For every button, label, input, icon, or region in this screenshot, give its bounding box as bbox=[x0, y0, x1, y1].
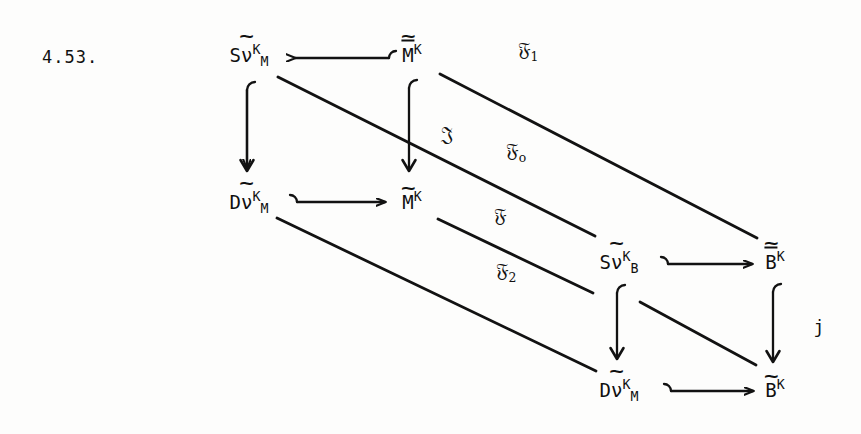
node-base-letters: S~ν bbox=[600, 253, 623, 272]
edge-label-j-small: j bbox=[814, 318, 825, 336]
arrow-bbar-down-to-b bbox=[767, 284, 782, 362]
node-base-letters: S~ν bbox=[230, 46, 253, 65]
arrow-svb-down-to-dvm bbox=[611, 285, 626, 359]
node-sv-b-mid-right: S~νKB bbox=[600, 253, 639, 272]
arrow-mbar-down-to-m bbox=[403, 80, 418, 171]
node-m-bar-top-right: ~MK bbox=[402, 46, 421, 65]
edge-label-j-fraktur: 𝔍 bbox=[441, 124, 453, 144]
diagonal-dvm-to-dvmbottom bbox=[277, 218, 596, 371]
node-b-tilde-bottom-right: ~BK bbox=[765, 381, 784, 400]
figure-canvas: 4.53. S nu (hooked arrow pointing LEFT) … bbox=[0, 0, 861, 434]
node-subscript: M bbox=[630, 389, 638, 404]
node-dv-m-mid-left: D~νKM bbox=[230, 193, 269, 212]
arrow-svm-down-to-dvm bbox=[241, 82, 256, 171]
edge-label-f-plain: 𝔉 bbox=[494, 205, 507, 225]
node-subscript: M bbox=[260, 54, 268, 69]
arrow-dvmbottom-to-b bbox=[664, 384, 753, 391]
node-subscript: M bbox=[260, 201, 268, 216]
edge-label-f-one: 𝔉1 bbox=[518, 39, 539, 63]
node-b-bar-tilde-right: ~BK bbox=[765, 253, 784, 272]
diagonal-svb-to-b bbox=[640, 302, 756, 365]
diagonal-mbar-to-bbar bbox=[440, 74, 757, 238]
arrow-layer: S nu (hooked arrow pointing LEFT) --> bbox=[0, 0, 861, 434]
arrow-dvm-to-m bbox=[290, 195, 385, 202]
node-dv-m-bottom: D~νKM bbox=[600, 381, 639, 400]
node-base-letters: ~M bbox=[402, 193, 413, 212]
diagonal-svm-to-svb bbox=[278, 77, 595, 236]
node-subscript: B bbox=[630, 261, 638, 276]
node-base-letters: D~ν bbox=[230, 193, 253, 212]
node-m-tilde-center: ~MK bbox=[402, 193, 421, 212]
node-base-letters: ~M bbox=[402, 46, 413, 65]
node-base-letters: D~ν bbox=[600, 381, 623, 400]
node-base-letters: ~B bbox=[765, 381, 776, 400]
edge-label-f-zero: 𝔉o bbox=[506, 140, 526, 164]
node-base-letters: ~B bbox=[765, 253, 776, 272]
arrow-mbar-to-svm bbox=[295, 51, 396, 58]
node-sv-m-top-left: S~νKM bbox=[230, 46, 269, 65]
arrow-svb-to-bbar bbox=[661, 257, 752, 264]
edge-label-f-two: 𝔉2 bbox=[496, 260, 517, 284]
equation-number: 4.53. bbox=[42, 47, 98, 67]
